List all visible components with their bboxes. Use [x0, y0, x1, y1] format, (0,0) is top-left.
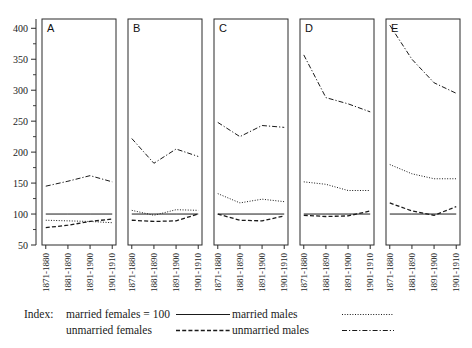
y-tick-label: 50	[18, 240, 28, 251]
y-axis: 50100150200250300350400	[13, 19, 36, 251]
x-tick-label: 1901-1910	[279, 253, 289, 292]
x-tick-label: 1891-1900	[257, 253, 267, 292]
legend-label: married males	[232, 308, 298, 320]
x-tick-label: 1881-1890	[149, 253, 159, 292]
panel-frame	[300, 19, 374, 245]
y-tick-label: 400	[13, 23, 28, 34]
y-tick-label: 250	[13, 116, 28, 127]
panel-d: D	[300, 19, 374, 249]
y-tick-label: 150	[13, 178, 28, 189]
x-tick-label: 1881-1890	[235, 253, 245, 292]
x-tick-label: 1891-1900	[85, 253, 95, 292]
panel-b: B	[128, 19, 202, 249]
x-tick-label: 1871-1880	[41, 253, 51, 292]
panel-a: A	[42, 19, 116, 249]
x-tick-label: 1891-1900	[171, 253, 181, 292]
panels-group: ABCDE	[42, 19, 460, 249]
panel-frame	[128, 19, 202, 245]
y-tick-label: 100	[13, 209, 28, 220]
y-tick-label: 300	[13, 85, 28, 96]
x-tick-label: 1871-1880	[213, 253, 223, 292]
panel-label: D	[305, 22, 313, 34]
panel-frame	[386, 19, 460, 245]
y-tick-label: 350	[13, 54, 28, 65]
x-tick-label: 1871-1880	[127, 253, 137, 292]
x-axis-labels: 1871-18801881-18901891-19001901-19101871…	[41, 253, 461, 292]
legend-index-prefix: Index:	[24, 308, 53, 320]
x-tick-label: 1871-1880	[299, 253, 309, 292]
panel-label: A	[47, 22, 55, 34]
multi-panel-line-chart: 50100150200250300350400 ABCDE 1871-18801…	[0, 0, 472, 348]
chart-legend: Index:married females = 100unmarried fem…	[24, 308, 394, 336]
x-tick-label: 1881-1890	[407, 253, 417, 292]
panel-frame	[214, 19, 288, 245]
x-tick-label: 1901-1910	[365, 253, 375, 292]
x-tick-label: 1891-1900	[429, 253, 439, 292]
panel-label: B	[133, 22, 140, 34]
panel-frame	[42, 19, 116, 245]
legend-label: married females = 100	[66, 308, 170, 320]
x-tick-label: 1901-1910	[107, 253, 117, 292]
legend-label: unmarried males	[232, 324, 309, 336]
x-tick-label: 1881-1890	[63, 253, 73, 292]
y-tick-label: 200	[13, 147, 28, 158]
x-tick-label: 1881-1890	[321, 253, 331, 292]
x-tick-label: 1891-1900	[343, 253, 353, 292]
panel-e: E	[386, 19, 460, 249]
x-tick-label: 1871-1880	[385, 253, 395, 292]
panel-label: C	[219, 22, 227, 34]
x-tick-label: 1901-1910	[451, 253, 461, 292]
panel-c: C	[214, 19, 288, 249]
figure-root: 50100150200250300350400 ABCDE 1871-18801…	[0, 0, 472, 348]
legend-label: unmarried females	[66, 324, 152, 336]
x-tick-label: 1901-1910	[193, 253, 203, 292]
